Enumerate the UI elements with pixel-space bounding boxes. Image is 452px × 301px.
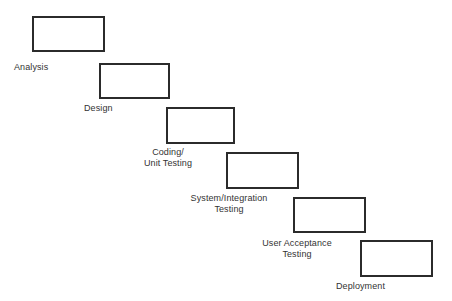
stage-box-system-integration-testing[interactable] bbox=[226, 152, 299, 189]
stage-label-analysis: Analysis bbox=[14, 62, 76, 73]
stage-label-line: User Acceptance bbox=[255, 238, 339, 249]
stage-box-analysis[interactable] bbox=[32, 16, 105, 52]
waterfall-diagram: AnalysisDesignCoding/Unit TestingSystem/… bbox=[0, 0, 452, 301]
stage-label-system-integration-testing: System/IntegrationTesting bbox=[185, 193, 273, 215]
stage-label-line: System/Integration bbox=[185, 193, 273, 204]
stage-box-coding-unit-testing[interactable] bbox=[166, 107, 235, 144]
stage-label-line: Deployment bbox=[336, 281, 410, 292]
stage-box-design[interactable] bbox=[99, 63, 170, 99]
stage-label-coding-unit-testing: Coding/Unit Testing bbox=[134, 147, 202, 169]
stage-label-line: Testing bbox=[255, 249, 339, 260]
stage-label-deployment: Deployment bbox=[336, 281, 410, 292]
stage-label-line: Testing bbox=[185, 204, 273, 215]
stage-box-deployment[interactable] bbox=[360, 240, 433, 277]
stage-box-user-acceptance-testing[interactable] bbox=[293, 197, 366, 233]
stage-label-user-acceptance-testing: User AcceptanceTesting bbox=[255, 238, 339, 260]
stage-label-line: Unit Testing bbox=[134, 158, 202, 169]
stage-label-line: Coding/ bbox=[134, 147, 202, 158]
stage-label-design: Design bbox=[84, 103, 146, 114]
stage-label-line: Analysis bbox=[14, 62, 76, 73]
stage-label-line: Design bbox=[84, 103, 146, 114]
